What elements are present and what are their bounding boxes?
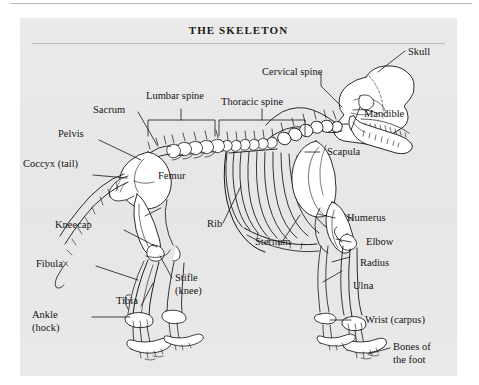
- leader-sacrum: [138, 112, 157, 145]
- label-kneecap: Kneecap: [55, 219, 92, 231]
- leader-fibula: [96, 266, 138, 280]
- label-wrist-carpus: Wrist (carpus): [365, 314, 425, 326]
- label-femur: Femur: [158, 170, 185, 182]
- label-stifle-line2: (knee): [175, 285, 202, 297]
- leader-stifle: [160, 256, 172, 278]
- label-bones-of-foot-line1: Bones of: [393, 341, 431, 353]
- hind-leg-near-bone: [125, 194, 171, 360]
- label-humerus: Humerus: [347, 212, 386, 224]
- label-ankle-line1: Ankle: [32, 309, 58, 321]
- lumbar-spine-bone: [167, 130, 225, 160]
- label-tibia: Tibia: [116, 295, 138, 307]
- label-sternum: Sternum: [255, 236, 291, 248]
- label-mandible: Mandible: [364, 108, 404, 120]
- label-sacrum: Sacrum: [93, 104, 125, 116]
- label-skull: Skull: [408, 46, 430, 58]
- label-elbow: Elbow: [366, 236, 393, 248]
- label-rib: Rib: [207, 218, 222, 230]
- thoracic-spine-bone: [222, 129, 279, 153]
- label-stifle-line1: Stifle: [175, 272, 198, 284]
- label-lumbar-spine: Lumbar spine: [146, 90, 204, 102]
- label-pelvis: Pelvis: [58, 128, 84, 140]
- label-cervical-spine: Cervical spine: [262, 66, 322, 78]
- page-top-rule: [10, 3, 472, 4]
- label-coccyx-tail: Coccyx (tail): [23, 158, 78, 170]
- label-ankle-line2: (hock): [32, 322, 59, 334]
- label-thoracic-spine: Thoracic spine: [221, 96, 283, 108]
- leader-pelvis: [99, 140, 141, 160]
- label-bones-of-foot-line2: the foot: [393, 354, 425, 366]
- cervical-spine-bone: [266, 108, 348, 145]
- skeleton-figure-panel: THE SKELETON: [20, 18, 457, 376]
- label-ulna: Ulna: [353, 280, 373, 292]
- label-scapula: Scapula: [327, 146, 360, 158]
- label-fibula: Fibula: [36, 258, 63, 270]
- leader-radius: [332, 257, 350, 262]
- label-radius: Radius: [360, 257, 389, 269]
